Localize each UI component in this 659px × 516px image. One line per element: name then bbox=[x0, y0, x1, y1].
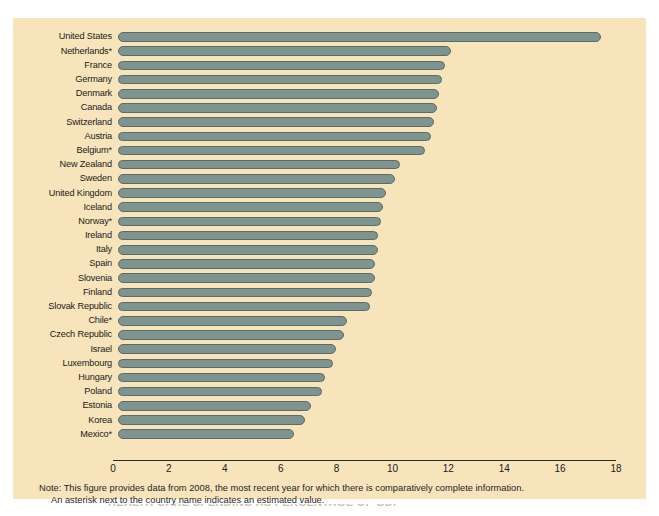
bar bbox=[118, 75, 442, 85]
bar-row: Estonia bbox=[13, 399, 646, 413]
bar-track bbox=[118, 214, 646, 228]
bar-track bbox=[118, 200, 646, 214]
bar-track bbox=[118, 101, 646, 115]
bar-track bbox=[118, 229, 646, 243]
bar bbox=[118, 89, 439, 99]
bar-track bbox=[118, 158, 646, 172]
bar bbox=[118, 259, 375, 269]
bar-track bbox=[118, 243, 646, 257]
bar-track bbox=[118, 129, 646, 143]
bar bbox=[118, 302, 370, 312]
bar-chart-plot-area: United StatesNetherlands*FranceGermanyDe… bbox=[13, 30, 646, 460]
x-axis-line bbox=[113, 460, 616, 461]
bar bbox=[118, 359, 333, 369]
bar-category-label: Austria bbox=[13, 132, 118, 141]
cut-off-caption-text: HEALTH CARE SPENDING AS PERCENTAGE OF GD… bbox=[108, 504, 578, 508]
bar-track bbox=[118, 58, 646, 72]
bar bbox=[118, 146, 425, 156]
bar bbox=[118, 174, 395, 184]
note-line-1: Note: This figure provides data from 200… bbox=[39, 483, 524, 493]
bar-category-label: Mexico* bbox=[13, 430, 118, 439]
bar-category-label: Finland bbox=[13, 288, 118, 297]
bar-category-label: Slovenia bbox=[13, 274, 118, 283]
bar-row: Poland bbox=[13, 385, 646, 399]
bar bbox=[118, 61, 445, 71]
x-axis-tick-label: 14 bbox=[499, 463, 510, 474]
bar-category-label: Estonia bbox=[13, 401, 118, 410]
bar bbox=[118, 202, 383, 212]
bar-track bbox=[118, 342, 646, 356]
bar-category-label: Korea bbox=[13, 416, 118, 425]
bar-category-label: United States bbox=[13, 32, 118, 41]
cut-off-caption: HEALTH CARE SPENDING AS PERCENTAGE OF GD… bbox=[108, 504, 578, 513]
bar-category-label: Poland bbox=[13, 387, 118, 396]
bar-category-label: Ireland bbox=[13, 231, 118, 240]
bar-track bbox=[118, 314, 646, 328]
bar bbox=[118, 401, 311, 411]
bar-category-label: Chile* bbox=[13, 316, 118, 325]
bar-row: Mexico* bbox=[13, 427, 646, 441]
bar-row: Israel bbox=[13, 342, 646, 356]
x-axis-tick-label: 16 bbox=[555, 463, 566, 474]
bar-row: France bbox=[13, 58, 646, 72]
bar-row: Germany bbox=[13, 73, 646, 87]
bar-row: Sweden bbox=[13, 172, 646, 186]
bar bbox=[118, 46, 451, 56]
bar-track bbox=[118, 186, 646, 200]
bar bbox=[118, 273, 375, 283]
bar-track bbox=[118, 371, 646, 385]
bar bbox=[118, 373, 325, 383]
bar-row: Spain bbox=[13, 257, 646, 271]
bar-row: Finland bbox=[13, 285, 646, 299]
bar-category-label: Norway* bbox=[13, 217, 118, 226]
x-axis: 024681012141618 bbox=[13, 460, 646, 482]
bar-category-label: Switzerland bbox=[13, 118, 118, 127]
x-axis-tick-label: 0 bbox=[110, 463, 116, 474]
bar-track bbox=[118, 44, 646, 58]
figure-note: Note: This figure provides data from 200… bbox=[39, 482, 635, 506]
bar-row: Slovenia bbox=[13, 271, 646, 285]
bar-category-label: Canada bbox=[13, 103, 118, 112]
bar-category-label: Luxembourg bbox=[13, 359, 118, 368]
bar-category-label: Czech Republic bbox=[13, 330, 118, 339]
bar-track bbox=[118, 257, 646, 271]
x-axis-tick-label: 8 bbox=[334, 463, 340, 474]
bar-track bbox=[118, 356, 646, 370]
bar bbox=[118, 387, 322, 397]
bar bbox=[118, 217, 381, 227]
bar-category-label: Spain bbox=[13, 259, 118, 268]
bar-category-label: Iceland bbox=[13, 203, 118, 212]
x-axis-tick-label: 10 bbox=[387, 463, 398, 474]
bar-row: Austria bbox=[13, 129, 646, 143]
bar-category-label: Denmark bbox=[13, 89, 118, 98]
figure-panel: United StatesNetherlands*FranceGermanyDe… bbox=[13, 18, 646, 499]
bar-category-label: Germany bbox=[13, 75, 118, 84]
bar-track bbox=[118, 144, 646, 158]
bar-track bbox=[118, 399, 646, 413]
bar-track bbox=[118, 87, 646, 101]
bar-track bbox=[118, 271, 646, 285]
x-axis-tick-label: 2 bbox=[166, 463, 172, 474]
bar-track bbox=[118, 30, 646, 44]
bar-row: Slovak Republic bbox=[13, 300, 646, 314]
bar-category-label: Netherlands* bbox=[13, 47, 118, 56]
bar-track bbox=[118, 172, 646, 186]
bar-track bbox=[118, 73, 646, 87]
bar-row: Chile* bbox=[13, 314, 646, 328]
bar bbox=[118, 117, 434, 127]
bar-row: Luxembourg bbox=[13, 356, 646, 370]
bar bbox=[118, 415, 305, 425]
bar bbox=[118, 316, 347, 326]
bar-track bbox=[118, 115, 646, 129]
bar bbox=[118, 231, 378, 241]
bar-track bbox=[118, 413, 646, 427]
bar-category-label: Slovak Republic bbox=[13, 302, 118, 311]
bar-track bbox=[118, 300, 646, 314]
bar-row: Ireland bbox=[13, 229, 646, 243]
bar-category-label: New Zealand bbox=[13, 160, 118, 169]
bar-row: Switzerland bbox=[13, 115, 646, 129]
bar-row: Belgium* bbox=[13, 144, 646, 158]
bar bbox=[118, 288, 372, 298]
bar-category-label: Italy bbox=[13, 245, 118, 254]
bar-category-label: Hungary bbox=[13, 373, 118, 382]
